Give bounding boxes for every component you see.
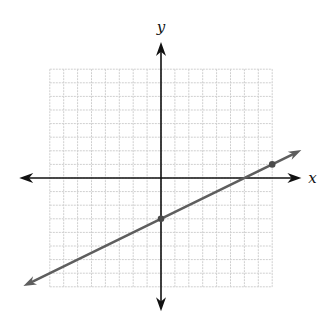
line-point (158, 216, 165, 223)
x-axis-label: x (308, 169, 317, 187)
plotted-line-group (23, 150, 301, 286)
y-axis-label: y (156, 18, 166, 36)
axes (19, 42, 301, 311)
coordinate-plane: x y (0, 0, 327, 316)
line-point (269, 161, 276, 168)
